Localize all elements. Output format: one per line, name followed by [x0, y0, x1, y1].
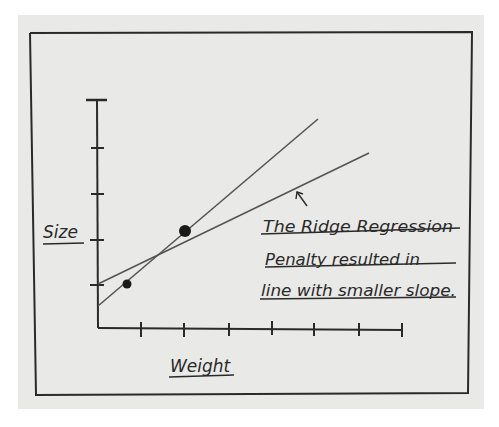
- y-axis: [86, 100, 107, 328]
- y-label-underline: [43, 243, 84, 244]
- data-point-2: [179, 225, 191, 237]
- y-axis-label: Size: [43, 222, 78, 242]
- frame-border: [30, 32, 472, 395]
- x-axis: [98, 321, 403, 337]
- hand-drawn-chart: Size Weight The Ridge Regression Penalty…: [0, 0, 499, 427]
- data-point-1: [123, 280, 132, 289]
- x-axis-label: Weight: [170, 356, 232, 376]
- annotation-arrow-icon: [296, 192, 307, 206]
- least-squares-line: [98, 119, 318, 306]
